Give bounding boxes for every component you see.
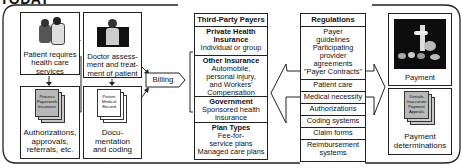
regulation-patient-care: Patient care (301, 80, 365, 92)
payers-column: Third-Party Payers Private Health Insura… (194, 13, 268, 160)
regulation-medical-necessity: Medical necessity (301, 92, 365, 104)
payment-label: Payment (389, 74, 451, 82)
payment-box: Payment (388, 13, 452, 86)
billing-label: Billing (148, 75, 178, 85)
determinations-label: Payment determinations (389, 133, 451, 150)
regulation-authorizations: Authorizations (301, 104, 365, 116)
payment-determinations-box: Denials Inaccurate Payment Appeals Payme… (388, 88, 452, 155)
payer-other: Other Insurance Automobile, personal inj… (195, 56, 267, 97)
payer-plan-types: Plan Types Fee-for- service plans Manage… (195, 123, 267, 159)
regulations-header: Regulations (301, 14, 365, 27)
regulation-reimbursement: Reimbursement systems (301, 140, 365, 161)
regulations-column: Regulations Payer guidelines Participati… (300, 13, 366, 162)
payer-private: Private Health Insurance Individual or g… (195, 27, 267, 56)
payers-header: Third-Party Payers (195, 14, 267, 27)
payment-photo-icon (394, 19, 446, 69)
regulation-claim-forms: Claim forms (301, 128, 365, 140)
regulation-coding-systems: Coding systems (301, 116, 365, 128)
document-stack-icon: Denials Inaccurate Payment Appeals (404, 92, 438, 126)
regulation-payer-guidelines: Payer guidelines Participating provider … (301, 27, 365, 80)
payer-government: Government Sponsored health insurance (195, 97, 267, 123)
